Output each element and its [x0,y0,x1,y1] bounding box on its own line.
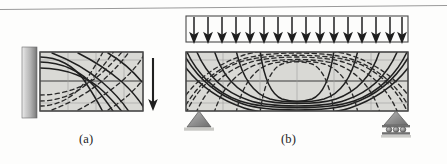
panel-b-caption: (b) [281,132,296,147]
fixed-wall-support [22,47,37,118]
roller-circle [393,127,399,133]
figure-svg [0,0,447,164]
page-rule [0,6,447,10]
panel-a-caption: (a) [79,132,93,147]
panel-a [22,44,158,120]
roller-support [381,111,411,138]
panel-b [184,16,411,138]
point-load-arrow [148,58,158,111]
pin-support [184,111,214,131]
figure-container: (a) (b) [0,0,447,164]
roller-circle [400,127,406,133]
roller-circle [386,127,392,133]
distributed-load-box [186,16,408,42]
